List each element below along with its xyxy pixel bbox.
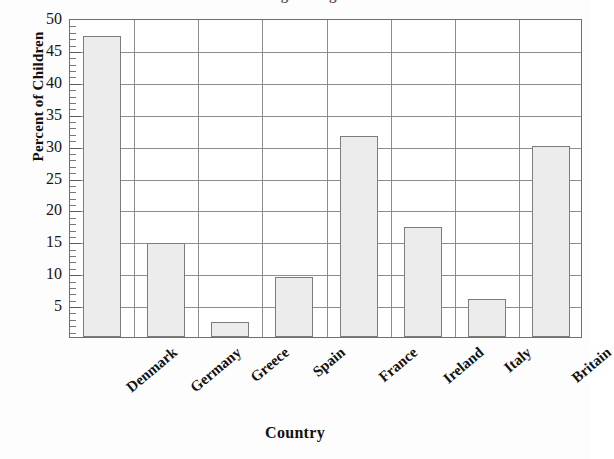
y-tick-label: 5 xyxy=(22,298,62,314)
x-tick-label-italy: Italy xyxy=(501,344,535,376)
y-tick-minor xyxy=(70,301,76,302)
y-tick-label: 20 xyxy=(22,202,62,218)
y-tick-minor xyxy=(70,39,76,40)
bar-france xyxy=(340,136,378,337)
y-tick-major xyxy=(70,52,81,53)
y-tick-major xyxy=(70,84,81,85)
y-tick-label: 30 xyxy=(22,139,62,155)
chart-title-text: Percent of Children Living in Single-Par… xyxy=(0,0,590,4)
y-tick-minor xyxy=(70,173,76,174)
y-tick-minor xyxy=(70,192,76,193)
y-tick-major xyxy=(70,307,81,308)
y-tick-label: 45 xyxy=(22,43,62,59)
gridline-vertical xyxy=(455,20,456,337)
gridline-horizontal xyxy=(70,180,581,181)
x-axis-tick-labels: DenmarkGermanyGreeceSpainFranceIrelandIt… xyxy=(69,338,582,418)
y-tick-minor xyxy=(70,186,76,187)
bar-britain xyxy=(532,146,570,337)
y-tick-minor xyxy=(70,262,76,263)
y-tick-label: 40 xyxy=(22,75,62,91)
y-tick-minor xyxy=(70,256,76,257)
bar-germany xyxy=(147,243,185,337)
y-tick-minor xyxy=(70,237,76,238)
y-tick-label: 35 xyxy=(22,107,62,123)
gridline-vertical xyxy=(519,20,520,337)
y-tick-minor xyxy=(70,33,76,34)
x-tick-label-ireland: Ireland xyxy=(440,344,487,387)
y-axis-tick-labels: 5045403530252015105 xyxy=(22,0,62,459)
y-tick-minor xyxy=(70,154,76,155)
y-tick-minor xyxy=(70,90,76,91)
y-tick-minor xyxy=(70,205,76,206)
y-tick-minor xyxy=(70,326,76,327)
y-tick-minor xyxy=(70,46,76,47)
y-tick-major xyxy=(70,116,81,117)
y-tick-minor xyxy=(70,128,76,129)
y-tick-minor xyxy=(70,320,76,321)
gridline-vertical xyxy=(391,20,392,337)
y-tick-minor xyxy=(70,65,76,66)
x-tick-label-denmark: Denmark xyxy=(123,344,181,396)
y-tick-minor xyxy=(70,135,76,136)
y-tick-label: 25 xyxy=(22,171,62,187)
gridline-vertical xyxy=(262,20,263,337)
gridline-horizontal xyxy=(70,116,581,117)
y-tick-major xyxy=(70,211,81,212)
gridline-vertical xyxy=(327,20,328,337)
bar-greece xyxy=(211,322,249,337)
chart-title-clipped: Percent of Children Living in Single-Par… xyxy=(0,0,590,13)
bar-spain xyxy=(275,277,313,337)
y-tick-minor xyxy=(70,97,76,98)
y-tick-minor xyxy=(70,288,76,289)
gridline-vertical xyxy=(134,20,135,337)
gridline-horizontal xyxy=(70,148,581,149)
x-tick-label-britain: Britain xyxy=(568,344,614,386)
y-tick-minor xyxy=(70,199,76,200)
bar-denmark xyxy=(83,36,121,337)
y-tick-minor xyxy=(70,58,76,59)
y-tick-minor xyxy=(70,294,76,295)
plot-area xyxy=(69,19,582,338)
y-tick-minor xyxy=(70,77,76,78)
y-tick-minor xyxy=(70,313,76,314)
x-axis-title: Country xyxy=(0,424,590,442)
y-tick-minor xyxy=(70,141,76,142)
bar-italy xyxy=(468,299,506,337)
y-tick-major xyxy=(70,243,81,244)
y-tick-minor xyxy=(70,282,76,283)
y-tick-minor xyxy=(70,103,76,104)
y-tick-major xyxy=(70,180,81,181)
y-tick-major xyxy=(70,275,81,276)
y-tick-minor xyxy=(70,160,76,161)
y-tick-minor xyxy=(70,167,76,168)
y-tick-label: 10 xyxy=(22,266,62,282)
gridline-horizontal xyxy=(70,52,581,53)
y-tick-minor xyxy=(70,71,76,72)
y-tick-major xyxy=(70,148,81,149)
x-tick-label-spain: Spain xyxy=(310,344,349,381)
x-tick-label-germany: Germany xyxy=(187,344,245,396)
y-tick-minor xyxy=(70,26,76,27)
y-tick-minor xyxy=(70,224,76,225)
y-tick-minor xyxy=(70,333,76,334)
gridline-vertical xyxy=(198,20,199,337)
y-tick-minor xyxy=(70,231,76,232)
gridline-horizontal xyxy=(70,84,581,85)
y-tick-minor xyxy=(70,122,76,123)
y-tick-minor xyxy=(70,218,76,219)
x-tick-label-france: France xyxy=(376,344,421,386)
y-tick-minor xyxy=(70,250,76,251)
y-tick-minor xyxy=(70,269,76,270)
x-tick-label-greece: Greece xyxy=(247,344,292,386)
y-tick-label: 15 xyxy=(22,234,62,250)
bar-ireland xyxy=(404,227,442,337)
y-tick-label: 50 xyxy=(22,11,62,27)
y-tick-minor xyxy=(70,109,76,110)
gridline-horizontal xyxy=(70,211,581,212)
